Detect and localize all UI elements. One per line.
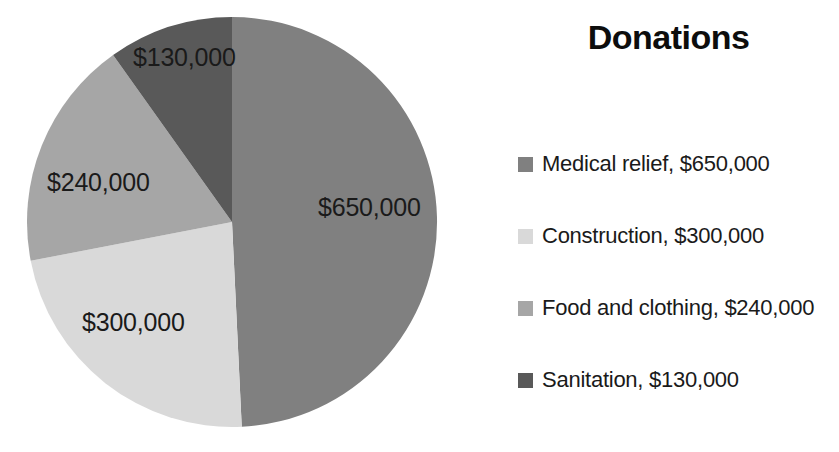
legend-swatch-icon — [518, 229, 533, 244]
chart-legend: Donations Medical relief, $650,000 Const… — [498, 0, 839, 452]
pie-chart-figure: $650,000 $300,000 $240,000 $130,000 Dona… — [0, 0, 839, 452]
legend-item-label: Food and clothing, $240,000 — [542, 295, 814, 321]
pie-chart-svg — [0, 0, 480, 452]
legend-item-sanitation[interactable]: Sanitation, $130,000 — [518, 344, 839, 416]
legend-items-list: Medical relief, $650,000 Construction, $… — [518, 128, 839, 416]
legend-swatch-icon — [518, 157, 533, 172]
pie-data-label-medical-relief: $650,000 — [318, 193, 421, 222]
pie-data-label-construction: $300,000 — [82, 308, 185, 337]
legend-item-label: Sanitation, $130,000 — [542, 367, 739, 393]
pie-slices — [27, 17, 437, 427]
legend-item-label: Medical relief, $650,000 — [542, 151, 770, 177]
legend-item-construction[interactable]: Construction, $300,000 — [518, 200, 839, 272]
legend-item-food-and-clothing[interactable]: Food and clothing, $240,000 — [518, 272, 839, 344]
legend-item-label: Construction, $300,000 — [542, 223, 764, 249]
legend-swatch-icon — [518, 373, 533, 388]
chart-title: Donations — [498, 18, 839, 57]
legend-swatch-icon — [518, 301, 533, 316]
legend-item-medical-relief[interactable]: Medical relief, $650,000 — [518, 128, 839, 200]
pie-chart-plot-area: $650,000 $300,000 $240,000 $130,000 — [0, 0, 480, 452]
pie-data-label-sanitation: $130,000 — [133, 43, 236, 72]
pie-data-label-food-and-clothing: $240,000 — [47, 168, 150, 197]
